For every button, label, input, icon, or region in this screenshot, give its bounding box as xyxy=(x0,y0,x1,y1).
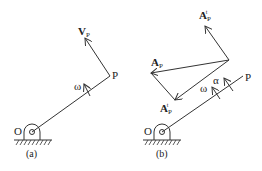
origin-o-label: O xyxy=(14,126,22,137)
point-p-label: P xyxy=(245,72,251,83)
caption-b: (b) xyxy=(156,149,168,159)
velocity-label: VP xyxy=(78,26,90,39)
accel-normal-arrow xyxy=(175,60,229,100)
alpha-label: α xyxy=(213,75,219,86)
accel-tangential-label: APt xyxy=(199,10,213,23)
ground-hatch xyxy=(145,140,180,145)
omega-label: ω xyxy=(200,83,207,94)
accel-total-label: AP xyxy=(151,57,163,70)
alpha-arrow xyxy=(224,78,233,91)
origin-o-label: O xyxy=(144,126,152,137)
accel-tangential-arrow xyxy=(205,26,229,60)
point-p-label: P xyxy=(112,70,118,81)
link-op xyxy=(32,76,110,132)
panel-b-drawing xyxy=(143,26,243,145)
diagram-canvas xyxy=(0,0,262,171)
ground-hatch xyxy=(16,140,51,145)
velocity-arrow xyxy=(85,38,110,76)
panel-a-drawing xyxy=(14,38,110,145)
accel-normal-label: APt xyxy=(160,103,174,116)
omega-label: ω xyxy=(74,81,81,92)
accel-closing-line xyxy=(151,73,175,100)
caption-a: (a) xyxy=(26,149,37,159)
